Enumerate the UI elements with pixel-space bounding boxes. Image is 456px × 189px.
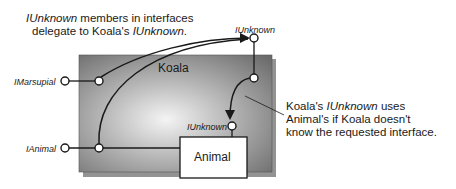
ianimal-lollipop-icon [61, 144, 69, 152]
imarsupial-inner-node-icon [95, 77, 103, 85]
animal-iunknown-lollipop-icon [228, 122, 236, 130]
caption-right-iunknown: IUnknown [327, 100, 378, 112]
ianimal-label: IAnimal [26, 143, 56, 156]
caption-right-line1: Koala's IUnknown uses [286, 100, 405, 113]
animal-label: Animal [194, 151, 231, 164]
caption-right-line1-text: Koala's [286, 100, 327, 112]
ianimal-inner-node-icon [95, 144, 103, 152]
animal-iunknown-label: IUnknown [187, 121, 227, 134]
koala-label: Koala [158, 62, 189, 75]
caption-right-line2: Animal's if Koala doesn't [286, 113, 411, 126]
imarsupial-lollipop-icon [61, 77, 69, 85]
caption-top-iunknown: IUnknown [26, 12, 77, 24]
koala-iunknown-inner-node-icon [250, 74, 258, 82]
caption-top-line2-text: delegate to Koala's [32, 25, 133, 37]
caption-top-line1: IUnknown members in interfaces [26, 12, 193, 25]
caption-top-line2-period: . [184, 25, 187, 37]
caption-top-line1-text: members in interfaces [77, 12, 193, 24]
caption-right-line1-end: uses [378, 100, 406, 112]
koala-iunknown-label: IUnknown [235, 24, 275, 37]
imarsupial-label: IMarsupial [14, 76, 56, 89]
caption-right-line3: know the requested interface. [286, 126, 437, 139]
caption-top-line2-iunknown: IUnknown [133, 25, 184, 37]
caption-top-line2: delegate to Koala's IUnknown. [32, 25, 187, 38]
